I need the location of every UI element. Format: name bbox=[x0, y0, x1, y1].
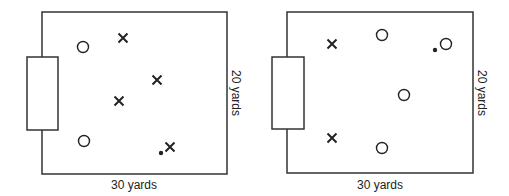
player-o-icon bbox=[79, 136, 90, 147]
width-label: 30 yards bbox=[357, 178, 403, 192]
right-field-diagram: 30 yards 20 yards bbox=[272, 12, 489, 192]
height-label: 20 yards bbox=[229, 70, 243, 116]
player-o-icon bbox=[399, 90, 410, 101]
field-boundary bbox=[287, 12, 473, 173]
player-x-icon bbox=[115, 97, 124, 106]
player-o-icon bbox=[441, 39, 452, 50]
goal-box bbox=[272, 57, 304, 129]
diagram-canvas: 30 yards 20 yards 30 yards 20 yards bbox=[0, 0, 509, 196]
player-x-icon bbox=[328, 134, 337, 143]
player-x-icon bbox=[166, 143, 175, 152]
ball-icon bbox=[433, 48, 437, 52]
player-o-icon bbox=[78, 42, 89, 53]
player-x-icon bbox=[328, 40, 337, 49]
player-o-icon bbox=[377, 30, 388, 41]
goal-box bbox=[27, 57, 58, 130]
field-boundary bbox=[42, 12, 227, 174]
height-label: 20 yards bbox=[475, 70, 489, 116]
player-markers bbox=[328, 30, 452, 154]
player-x-icon bbox=[153, 76, 162, 85]
width-label: 30 yards bbox=[111, 178, 157, 192]
player-o-icon bbox=[377, 143, 388, 154]
left-field-diagram: 30 yards 20 yards bbox=[27, 12, 243, 192]
ball-icon bbox=[159, 151, 163, 155]
player-x-icon bbox=[119, 34, 128, 43]
player-markers bbox=[78, 34, 175, 156]
